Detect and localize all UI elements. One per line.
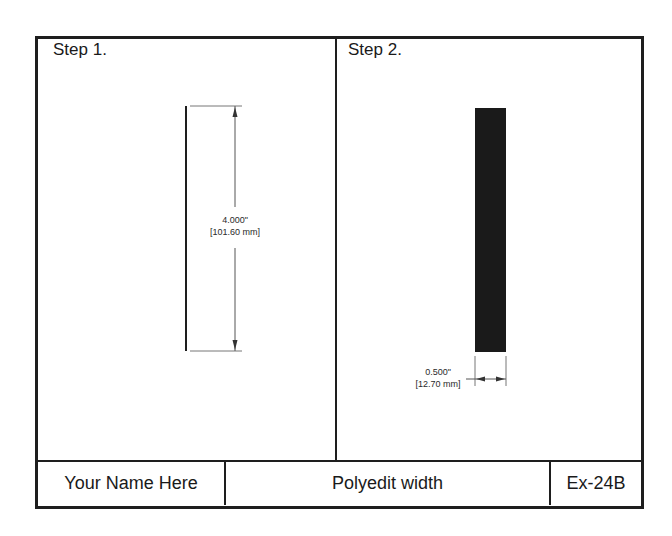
arrow-left-icon: [476, 377, 485, 382]
title-block-name: Your Name Here: [38, 462, 224, 504]
step-1-dimension-mm: [101.60 mm]: [196, 226, 274, 238]
step-2-dimension-text: 0.500" [12.70 mm]: [406, 366, 470, 390]
step-2-dimension-inches: 0.500": [406, 366, 470, 378]
title-block-title: Polyedit width: [226, 462, 549, 504]
step-2-polyline-wide: [475, 108, 506, 352]
arrow-right-icon: [496, 377, 505, 382]
step-2-dimension-mm: [12.70 mm]: [406, 378, 470, 390]
arrow-up-icon: [233, 107, 238, 117]
cad-drawing: [0, 0, 672, 536]
arrow-down-icon: [233, 340, 238, 350]
step-1-dimension-text: 4.000" [101.60 mm]: [196, 214, 274, 238]
title-block-exercise: Ex-24B: [551, 462, 641, 504]
step-1-dimension-inches: 4.000": [196, 214, 274, 226]
